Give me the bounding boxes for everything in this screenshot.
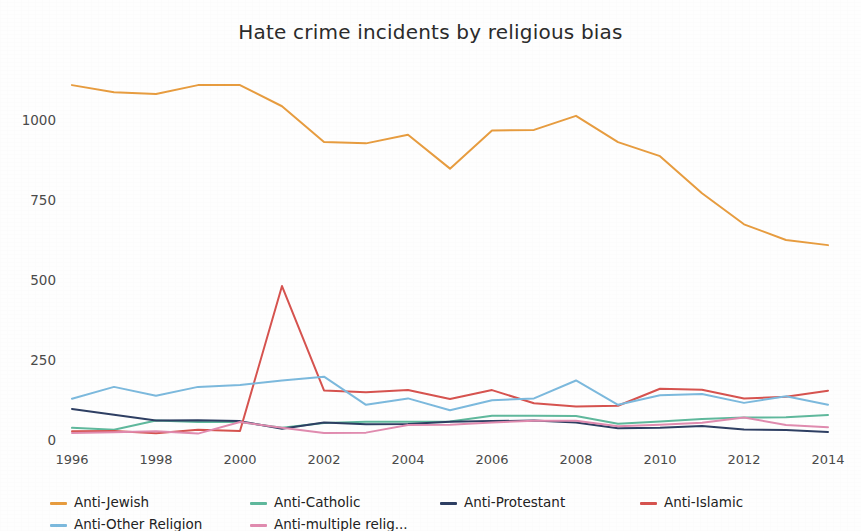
legend-swatch-icon <box>50 502 67 505</box>
x-tick-label: 1996 <box>55 452 88 467</box>
x-tick-label: 2008 <box>559 452 592 467</box>
x-tick-label: 1998 <box>139 452 172 467</box>
series-line <box>72 85 828 245</box>
legend-item-label: Anti-Protestant <box>464 496 565 510</box>
chart-container: Hate crime incidents by religious bias 0… <box>0 0 861 531</box>
series-line <box>72 377 828 411</box>
legend-swatch-icon <box>440 502 457 505</box>
legend-item[interactable]: Anti-Islamic <box>640 496 830 510</box>
x-tick-label: 2012 <box>727 452 760 467</box>
legend-item[interactable]: Anti-Jewish <box>50 496 250 510</box>
legend-item-label: Anti-Catholic <box>274 496 360 510</box>
legend-swatch-icon <box>640 502 657 505</box>
x-tick-label: 2010 <box>643 452 676 467</box>
legend-item[interactable]: Anti-Other Religion <box>50 518 250 531</box>
legend-item-label: Anti-Other Religion <box>74 518 202 531</box>
x-tick-label: 2002 <box>307 452 340 467</box>
legend-item-label: Anti-Islamic <box>664 496 743 510</box>
x-tick-label: 2006 <box>475 452 508 467</box>
legend-swatch-icon <box>250 502 267 505</box>
legend-swatch-icon <box>50 524 67 527</box>
legend-item[interactable]: Anti-Catholic <box>250 496 440 510</box>
legend: Anti-JewishAnti-CatholicAnti-ProtestantA… <box>50 492 850 531</box>
x-tick-label: 2014 <box>811 452 844 467</box>
legend-item-label: Anti-multiple relig... <box>274 518 408 531</box>
x-tick-label: 2000 <box>223 452 256 467</box>
x-tick-label: 2004 <box>391 452 424 467</box>
legend-item[interactable]: Anti-multiple relig... <box>250 518 440 531</box>
legend-item-label: Anti-Jewish <box>74 496 149 510</box>
legend-swatch-icon <box>250 524 267 527</box>
legend-item[interactable]: Anti-Protestant <box>440 496 640 510</box>
